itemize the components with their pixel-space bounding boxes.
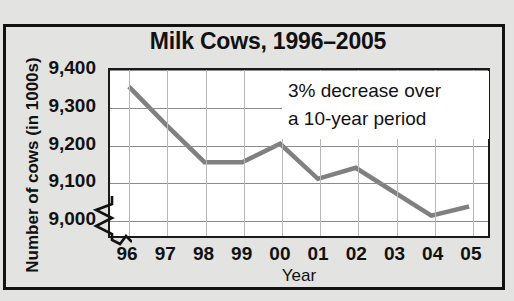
- x-axis-tick-label: 05: [449, 243, 493, 265]
- gridline-vertical: [206, 70, 207, 236]
- annotation-line-2: a 10-year period: [288, 105, 489, 133]
- chart-figure: Milk Cows, 1996–2005 Number of cows (in …: [0, 0, 514, 301]
- x-axis-title: Year: [108, 266, 490, 286]
- gridline-vertical: [167, 70, 168, 236]
- y-axis-tick-labels: 9,0009,1009,2009,3009,400: [20, 0, 96, 301]
- y-axis-tick-label: 9,300: [24, 95, 96, 117]
- y-axis-tick-label: 9,200: [24, 133, 96, 155]
- y-axis-tick-label: 9,400: [24, 57, 96, 79]
- y-axis-tick-label: 9,100: [24, 170, 96, 192]
- chart-title: Milk Cows, 1996–2005: [98, 28, 438, 55]
- annotation-line-1: 3% decrease over: [288, 77, 489, 105]
- gridline-vertical: [244, 70, 245, 236]
- plot-area: 3% decrease over a 10-year period: [108, 68, 490, 238]
- annotation-callout: 3% decrease over a 10-year period: [282, 71, 489, 139]
